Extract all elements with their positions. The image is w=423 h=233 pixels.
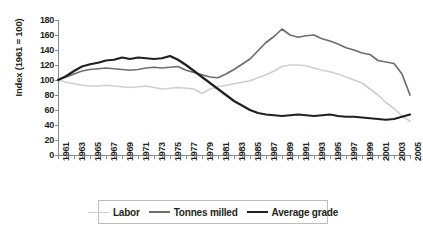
legend-label: Tonnes milled <box>174 207 238 218</box>
x-tick-label-1981: 1981 <box>222 142 231 161</box>
x-tick-label-1995: 1995 <box>334 142 343 161</box>
x-tick-label-1985: 1985 <box>254 142 263 161</box>
x-tick-label-1989: 1989 <box>286 142 295 161</box>
x-tick-label-2001: 2001 <box>382 142 391 161</box>
x-tick-label-1967: 1967 <box>110 142 119 161</box>
x-tick-label-1971: 1971 <box>142 142 151 161</box>
legend-swatch-icon <box>247 211 268 213</box>
x-tick-label-1987: 1987 <box>270 142 279 161</box>
x-tick-label-2003: 2003 <box>398 142 407 161</box>
x-tick-label-1963: 1963 <box>78 142 87 161</box>
x-tick-label-1965: 1965 <box>94 142 103 161</box>
legend-item-tonnes-milled[interactable]: Tonnes milled <box>149 207 238 218</box>
legend-item-labor[interactable]: Labor <box>88 207 140 218</box>
x-tick-label-1977: 1977 <box>190 142 199 161</box>
legend-item-average-grade[interactable]: Average grade <box>247 207 339 218</box>
chart-legend: LaborTonnes milledAverage grade <box>98 200 328 224</box>
x-tick-label-1961: 1961 <box>62 142 71 161</box>
legend-swatch-icon <box>149 211 170 213</box>
x-tick-label-1991: 1991 <box>302 142 311 161</box>
x-tick-label-1993: 1993 <box>318 142 327 161</box>
series-line-average-grade <box>58 56 410 120</box>
x-tick-label-1999: 1999 <box>366 142 375 161</box>
x-tick-label-1973: 1973 <box>158 142 167 161</box>
x-tick-label-1969: 1969 <box>126 142 135 161</box>
x-tick-label-2005: 2005 <box>414 142 423 161</box>
legend-label: Average grade <box>272 207 339 218</box>
x-tick-label-1983: 1983 <box>238 142 247 161</box>
x-tick-label-1975: 1975 <box>174 142 183 161</box>
series-line-labor <box>58 65 410 121</box>
x-tick-label-1979: 1979 <box>206 142 215 161</box>
legend-swatch-icon <box>88 212 109 213</box>
x-tick-label-1997: 1997 <box>350 142 359 161</box>
legend-label: Labor <box>113 207 140 218</box>
